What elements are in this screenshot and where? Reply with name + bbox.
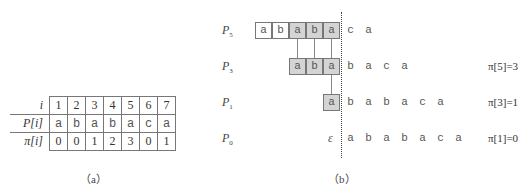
cell: a xyxy=(122,115,140,133)
table-row-p: P[i] a b a b a c a xyxy=(10,115,176,133)
text-char: a xyxy=(342,132,359,144)
text-char: a xyxy=(378,132,395,144)
box-shaded: a xyxy=(289,22,306,39)
text-char: b xyxy=(342,96,359,108)
text-char: a xyxy=(396,60,413,72)
cell: 3 xyxy=(86,97,104,115)
cell: b xyxy=(68,115,86,133)
label-p1: P1 xyxy=(222,95,233,111)
cell: 2 xyxy=(104,133,122,151)
epsilon-symbol: ε xyxy=(328,131,333,146)
text-char: a xyxy=(360,60,377,72)
pi-value: π[3]=1 xyxy=(488,96,518,108)
text-char: c xyxy=(414,96,431,108)
connector-line xyxy=(314,39,315,58)
text-char: a xyxy=(414,132,431,144)
label-p3: P3 xyxy=(222,59,233,75)
text-char: b xyxy=(342,60,359,72)
prefix-function-table: i 1 2 3 4 5 6 7 P[i] a b a b a c a π[i] … xyxy=(10,96,176,151)
cell: 0 xyxy=(50,133,68,151)
box: b xyxy=(272,22,289,39)
text-char: b xyxy=(378,96,395,108)
cell: 1 xyxy=(50,97,68,115)
cell: c xyxy=(140,115,158,133)
text-char: a xyxy=(432,96,449,108)
label-p5: P5 xyxy=(222,23,233,39)
text-char: c xyxy=(342,24,359,36)
pi-value: π[5]=3 xyxy=(488,60,518,72)
row-label-pi: π[i] xyxy=(10,133,50,151)
connector-line xyxy=(331,75,332,94)
row-label-p: P[i] xyxy=(10,115,50,133)
label-p0: P0 xyxy=(222,131,233,147)
caption-b: （b） xyxy=(328,170,356,186)
box-shaded: a xyxy=(323,58,340,75)
text-char: a xyxy=(360,24,377,36)
cell: a xyxy=(86,115,104,133)
text-char: b xyxy=(360,132,377,144)
cell: a xyxy=(158,115,176,133)
text-char: a xyxy=(360,96,377,108)
cell: 3 xyxy=(122,133,140,151)
connector-line xyxy=(331,39,332,58)
cell: 4 xyxy=(104,97,122,115)
row-label-i: i xyxy=(10,97,50,115)
text-char: c xyxy=(432,132,449,144)
table-row-pi: π[i] 0 0 1 2 3 0 1 xyxy=(10,133,176,151)
connector-line xyxy=(297,39,298,58)
text-char: a xyxy=(450,132,467,144)
text-char: b xyxy=(396,132,413,144)
box-shaded: b xyxy=(306,58,323,75)
cell: 6 xyxy=(140,97,158,115)
cell: b xyxy=(104,115,122,133)
cell: 0 xyxy=(140,133,158,151)
cell: a xyxy=(50,115,68,133)
caption-a: （a） xyxy=(80,170,107,186)
cell: 5 xyxy=(122,97,140,115)
box-shaded: a xyxy=(323,94,340,111)
pi-value: π[1]=0 xyxy=(488,132,518,144)
box-shaded: b xyxy=(306,22,323,39)
text-char: a xyxy=(396,96,413,108)
cell: 7 xyxy=(158,97,176,115)
cell: 0 xyxy=(68,133,86,151)
cell: 1 xyxy=(86,133,104,151)
cell: 2 xyxy=(68,97,86,115)
text-char: c xyxy=(378,60,395,72)
table-row-i: i 1 2 3 4 5 6 7 xyxy=(10,97,176,115)
box: a xyxy=(255,22,272,39)
cell: 1 xyxy=(158,133,176,151)
box-shaded: a xyxy=(323,22,340,39)
box-shaded: a xyxy=(289,58,306,75)
